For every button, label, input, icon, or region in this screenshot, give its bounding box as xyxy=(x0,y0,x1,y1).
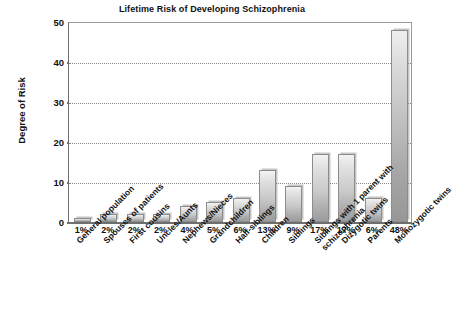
y-tick-label-40: 40 xyxy=(34,57,64,68)
gridline-30 xyxy=(69,103,411,104)
y-tick-label-20: 20 xyxy=(34,137,64,148)
y-tick-label-50: 50 xyxy=(34,17,64,28)
y-axis-tick-labels: 01020304050 xyxy=(30,0,64,334)
y-tick-label-0: 0 xyxy=(34,217,64,228)
bar xyxy=(285,186,302,222)
y-axis-title: Degree of Risk xyxy=(16,51,27,171)
y-tick-label-30: 30 xyxy=(34,97,64,108)
gridline-20 xyxy=(69,143,411,144)
bar xyxy=(391,30,408,222)
gridline-40 xyxy=(69,63,411,64)
bar xyxy=(312,154,329,222)
gridline-10 xyxy=(69,183,411,184)
y-tick-label-10: 10 xyxy=(34,177,64,188)
